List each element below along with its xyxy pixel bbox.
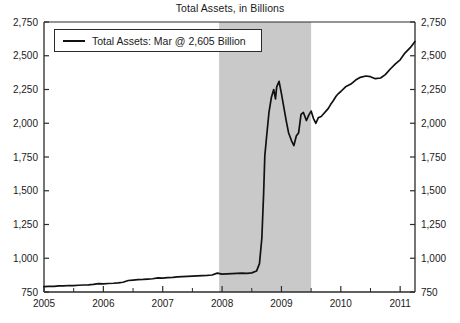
svg-text:2011: 2011 (389, 298, 411, 309)
svg-text:2,750: 2,750 (421, 17, 446, 28)
svg-text:2,000: 2,000 (13, 118, 38, 129)
svg-text:1,750: 1,750 (421, 152, 446, 163)
svg-text:1,500: 1,500 (13, 185, 38, 196)
svg-text:2008: 2008 (211, 298, 234, 309)
svg-text:2,250: 2,250 (13, 84, 38, 95)
svg-text:2006: 2006 (92, 298, 115, 309)
chart-container: Total Assets, in Billions 2,7502,5002,25… (0, 0, 460, 323)
svg-text:750: 750 (421, 287, 438, 298)
svg-text:2,500: 2,500 (421, 50, 446, 61)
y-axis-labels-right: 2,7502,5002,2502,0001,7501,5001,2501,000… (421, 17, 446, 298)
svg-text:2,000: 2,000 (421, 118, 446, 129)
svg-text:2,500: 2,500 (13, 50, 38, 61)
svg-text:2010: 2010 (330, 298, 353, 309)
svg-text:1,000: 1,000 (421, 253, 446, 264)
svg-text:2,750: 2,750 (13, 17, 38, 28)
svg-text:1,000: 1,000 (13, 253, 38, 264)
svg-text:750: 750 (21, 287, 38, 298)
svg-text:1,500: 1,500 (421, 185, 446, 196)
chart-legend: Total Assets: Mar @ 2,605 Billion (54, 29, 262, 52)
x-axis-labels: 2005200620072008200920102011 (33, 298, 411, 309)
svg-text:1,750: 1,750 (13, 152, 38, 163)
svg-text:2009: 2009 (270, 298, 293, 309)
svg-text:2,250: 2,250 (421, 84, 446, 95)
svg-text:2007: 2007 (152, 298, 175, 309)
y-axis-labels-left: 2,7502,5002,2502,0001,7501,5001,2501,000… (13, 17, 38, 298)
legend-line-swatch (63, 40, 85, 42)
legend-label: Total Assets: Mar @ 2,605 Billion (92, 35, 246, 47)
svg-text:1,250: 1,250 (13, 219, 38, 230)
svg-text:1,250: 1,250 (421, 219, 446, 230)
svg-text:2005: 2005 (33, 298, 56, 309)
